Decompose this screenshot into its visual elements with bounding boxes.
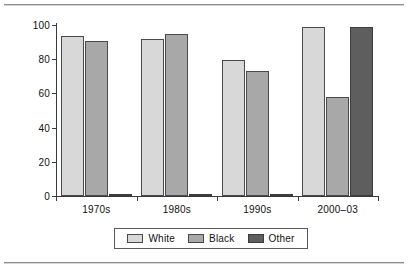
x-axis-tick-mark: [217, 196, 218, 201]
x-axis-tick-mark: [378, 196, 379, 201]
legend-swatch-black: [188, 234, 204, 243]
bar-white-1990s: [222, 60, 245, 196]
bar-black-1970s: [85, 41, 108, 196]
bar-white-200003: [302, 27, 325, 196]
bar-black-1990s: [246, 71, 269, 196]
bar-series-layer: [56, 25, 378, 196]
bar-white-1970s: [61, 36, 84, 196]
y-axis-tick-label: 0: [44, 191, 50, 202]
x-axis-label-1970s: 1970s: [82, 204, 110, 215]
chart-legend: WhiteBlackOther: [114, 228, 308, 249]
y-axis-tick-label: 40: [38, 122, 50, 133]
legend-item-other[interactable]: Other: [248, 233, 295, 244]
bar-group: [302, 25, 373, 196]
plot-area: 020406080100: [56, 25, 378, 196]
y-axis-tick-label: 20: [38, 156, 50, 167]
bar-group: [222, 25, 293, 196]
bar-black-200003: [326, 97, 349, 196]
x-axis-ticks: 1970s1980s1990s2000–03: [56, 196, 379, 218]
x-axis-tick-mark: [56, 196, 57, 201]
x-axis-label-1990s: 1990s: [243, 204, 271, 215]
legend-swatch-other: [248, 234, 264, 243]
x-axis-label-1980s: 1980s: [163, 204, 191, 215]
legend-label-black: Black: [209, 233, 234, 244]
bar-black-1980s: [165, 34, 188, 196]
bar-chart-figure: 020406080100 1970s1980s1990s2000–03 Whit…: [0, 8, 410, 256]
y-axis-tick-label: 60: [38, 88, 50, 99]
page-rule-bottom-shadow: [4, 263, 404, 264]
page-rule-top-shadow: [4, 5, 404, 6]
x-axis-tick-mark: [298, 196, 299, 201]
y-axis-tick-label: 80: [38, 54, 50, 65]
x-axis-label-200003: 2000–03: [318, 204, 358, 215]
legend-item-white[interactable]: White: [127, 233, 175, 244]
bar-group: [141, 25, 212, 196]
legend-label-other: Other: [269, 233, 295, 244]
bar-other-200003: [350, 27, 373, 196]
legend-label-white: White: [148, 233, 175, 244]
bar-white-1980s: [141, 39, 164, 196]
y-axis-tick-label: 100: [33, 20, 50, 31]
legend-item-black[interactable]: Black: [188, 233, 234, 244]
x-axis-tick-mark: [137, 196, 138, 201]
bar-group: [61, 25, 132, 196]
legend-swatch-white: [127, 234, 143, 243]
